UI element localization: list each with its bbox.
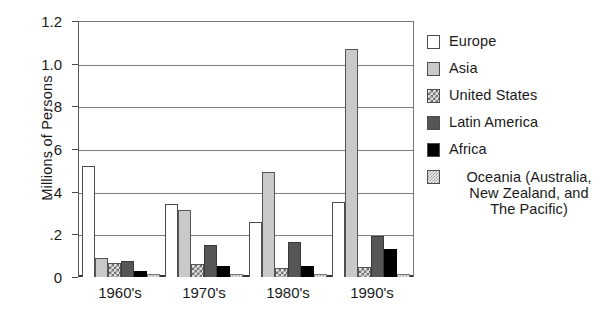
y-tick-label-1-2: 1.2 [41,13,62,30]
bar-oceania-1970s [230,274,243,277]
legend-swatch-africa-icon [427,143,440,157]
y-tick-label-0: 0 [54,269,62,286]
legend-label-oceania: Oceania (Australia,New Zealand, andThe P… [449,169,609,217]
y-tick-label-0-2: .2 [49,226,62,243]
bar-europe-1960s [82,166,95,277]
legend-swatch-united-states-icon [427,89,440,103]
legend-label-europe: Europe [449,34,496,49]
bar-group-1970s [163,22,247,277]
legend-item-africa: Africa [427,142,612,157]
bar-europe-1990s [332,202,345,277]
legend-label-oceania-line3: The Pacific) [490,201,568,217]
legend-label-oceania-line1: Oceania (Australia, [466,169,591,185]
bar-latin-1980s [288,242,301,277]
bar-group-1990s [330,22,414,277]
bar-asia-1960s [95,258,108,277]
bar-europe-1980s [249,222,262,277]
y-tick-label-1-0: 1.0 [41,55,62,72]
bar-europe-1970s [165,204,178,277]
bar-latin-1960s [121,261,134,277]
legend-swatch-europe-icon [427,35,440,49]
y-axis-ticks: 1.2 1.0 .8 .6 .4 .2 0 [0,0,72,322]
legend-item-europe: Europe [427,34,612,49]
bar-africa-1990s [384,249,397,277]
legend-label-africa: Africa [449,142,487,157]
bar-africa-1960s [134,271,147,277]
bar-oceania-1980s [314,274,327,277]
bar-africa-1980s [301,266,314,277]
legend-label-latin-america: Latin America [449,115,538,130]
plot-area [78,21,414,277]
bar-oceania-1960s [147,274,160,277]
bar-oceania-1990s [397,274,410,277]
x-label-1990s: 1990's [330,284,414,301]
bar-group-1980s [246,22,330,277]
bar-africa-1970s [217,266,230,277]
y-tick-label-0-6: .6 [49,141,62,158]
legend-item-united-states: United States [427,88,612,103]
bar-asia-1990s [345,49,358,277]
bar-asia-1980s [262,172,275,277]
legend-swatch-latin-america-icon [427,116,440,130]
bar-asia-1970s [178,210,191,277]
bar-us-1960s [108,263,121,277]
legend-item-latin-america: Latin America [427,115,612,130]
y-tick-label-0-4: .4 [49,183,62,200]
x-label-1980s: 1980's [246,284,330,301]
legend-label-asia: Asia [449,61,478,76]
bar-us-1980s [275,268,288,277]
bar-latin-1990s [371,236,384,277]
bar-latin-1970s [204,245,217,277]
legend: Europe Asia United States Latin America … [427,34,612,217]
legend-label-united-states: United States [449,88,537,103]
bar-us-1970s [191,264,204,277]
bar-groups [79,22,413,277]
x-label-1960s: 1960's [78,284,162,301]
legend-swatch-asia-icon [427,62,440,76]
y-tick-mark-0 [72,277,78,278]
legend-item-asia: Asia [427,61,612,76]
x-label-1970s: 1970's [162,284,246,301]
bar-group-1960s [79,22,163,277]
x-axis-labels: 1960's 1970's 1980's 1990's [78,284,414,301]
legend-item-oceania: Oceania (Australia,New Zealand, andThe P… [427,169,612,217]
y-tick-label-0-8: .8 [49,98,62,115]
bar-us-1990s [358,267,371,277]
legend-swatch-oceania-icon [427,170,440,184]
legend-label-oceania-line2: New Zealand, and [469,185,588,201]
bar-chart: Millions of Persons 1.2 1.0 .8 .6 .4 .2 … [0,0,614,322]
